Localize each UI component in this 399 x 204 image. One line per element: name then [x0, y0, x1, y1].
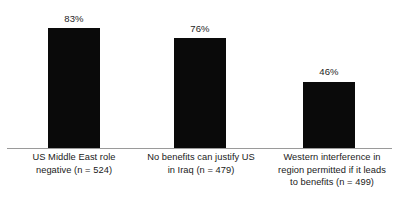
- bar-2: [303, 82, 355, 149]
- plot-area: 83% 76% 46%: [0, 0, 399, 149]
- bar-group-2: 46%: [266, 0, 392, 149]
- category-label-0: US Middle East rolenegative (n = 524): [6, 151, 142, 176]
- category-label-2: Western interference inregion permitted …: [268, 151, 396, 189]
- category-label-0-line-0: US Middle East role: [6, 151, 142, 164]
- bar-value-label-1: 76%: [136, 23, 264, 34]
- bar-1: [174, 38, 226, 148]
- bar-group-0: 83%: [8, 0, 140, 149]
- bar-0: [48, 28, 100, 148]
- category-label-0-line-1: negative (n = 524): [6, 164, 142, 177]
- category-axis-labels: US Middle East rolenegative (n = 524) No…: [0, 151, 399, 204]
- bar-value-label-0: 83%: [8, 13, 140, 24]
- bar-chart: 83% 76% 46% US Middle East rolenegative …: [0, 0, 399, 204]
- category-label-1-line-0: No benefits can justify US: [136, 151, 266, 164]
- category-label-1: No benefits can justify USin Iraq (n = 4…: [136, 151, 266, 176]
- bar-group-1: 76%: [136, 0, 264, 149]
- category-label-1-line-1: in Iraq (n = 479): [136, 164, 266, 177]
- x-axis-line: [7, 148, 392, 149]
- category-label-2-line-1: region permitted if it leads: [268, 164, 396, 177]
- bar-value-label-2: 46%: [266, 66, 392, 77]
- category-label-2-line-0: Western interference in: [268, 151, 396, 164]
- category-label-2-line-2: to benefits (n = 499): [268, 176, 396, 189]
